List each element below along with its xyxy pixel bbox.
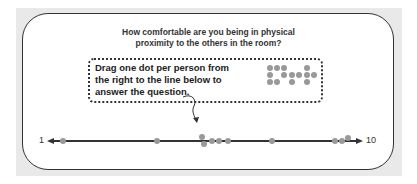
curved-arrow-icon: [0, 0, 417, 184]
draggable-dot[interactable]: [281, 72, 287, 78]
placed-dot[interactable]: [199, 134, 205, 140]
placed-dot[interactable]: [225, 138, 231, 144]
placed-dot[interactable]: [216, 138, 222, 144]
placed-dot[interactable]: [209, 138, 215, 144]
draggable-dot[interactable]: [311, 72, 317, 78]
draggable-dot[interactable]: [281, 65, 287, 71]
draggable-dot[interactable]: [267, 79, 273, 85]
placed-dot[interactable]: [339, 138, 345, 144]
draggable-dot[interactable]: [304, 72, 310, 78]
draggable-dot[interactable]: [274, 65, 280, 71]
placed-dot[interactable]: [201, 141, 207, 147]
scale-min-label: 1: [39, 135, 44, 145]
scale-max-label: 10: [366, 135, 376, 145]
placed-dot[interactable]: [60, 138, 66, 144]
draggable-dot[interactable]: [274, 79, 280, 85]
placed-dot[interactable]: [269, 138, 275, 144]
placed-dot[interactable]: [154, 138, 160, 144]
draggable-dot[interactable]: [304, 65, 310, 71]
arrow-right-icon: [356, 138, 363, 144]
placed-dot[interactable]: [345, 135, 351, 141]
draggable-dot[interactable]: [304, 79, 310, 85]
arrow-left-icon: [47, 138, 54, 144]
draggable-dot[interactable]: [296, 72, 302, 78]
draggable-dot[interactable]: [289, 72, 295, 78]
draggable-dot[interactable]: [289, 79, 295, 85]
draggable-dot[interactable]: [267, 65, 273, 71]
draggable-dot[interactable]: [267, 72, 273, 78]
placed-dot[interactable]: [332, 138, 338, 144]
